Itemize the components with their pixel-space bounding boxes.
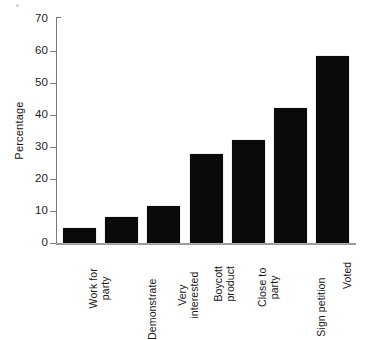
y-tick-label-30-wrap: 30 (18, 141, 48, 153)
x-label-slot-6: Voted (316, 248, 349, 332)
y-tick-label-20-wrap: 20 (18, 173, 48, 185)
x-label-slot-3: Boycottproduct (190, 248, 223, 332)
bar-1 (105, 217, 138, 243)
y-tick-label-40-wrap: 40 (18, 109, 48, 121)
y-axis-title: Percentage (14, 86, 25, 176)
x-axis-category-labels: Work forparty Demonstrate Veryinterested… (56, 248, 356, 332)
bar-0 (63, 228, 96, 244)
y-tick-label-50-wrap: 50 (18, 77, 48, 89)
x-label-6: Voted (341, 262, 353, 289)
y-tick-label-70-wrap: 70 (18, 13, 48, 25)
x-label-slot-5: Sign petition (274, 248, 307, 332)
y-tick-label-0: 0 (22, 237, 48, 249)
x-label-slot-0: Work forparty (63, 248, 96, 332)
y-tick-label-60-wrap: 60 (18, 45, 48, 57)
y-tick-label-40: 40 (22, 109, 48, 121)
x-axis-line (56, 243, 356, 245)
y-tick-0 (50, 243, 56, 244)
y-tick-label-50: 50 (22, 77, 48, 89)
plot-area (56, 17, 356, 243)
bar-3 (190, 154, 223, 243)
y-tick-label-0-wrap: 0 (18, 237, 48, 249)
y-tick-label-60: 60 (22, 45, 48, 57)
bar-6 (316, 56, 349, 243)
image-speck-artifact (16, 4, 19, 7)
x-label-slot-1: Demonstrate (105, 248, 138, 332)
bar-5 (274, 108, 307, 243)
y-tick-label-20: 20 (22, 173, 48, 185)
y-tick-label-30: 30 (22, 141, 48, 153)
x-label-slot-2: Veryinterested (147, 248, 180, 332)
bar-2 (147, 206, 180, 243)
y-tick-label-10: 10 (22, 205, 48, 217)
y-tick-label-70: 70 (22, 13, 48, 25)
x-label-slot-4: Close toparty (232, 248, 265, 332)
y-tick-label-10-wrap: 10 (18, 205, 48, 217)
bar-4 (232, 140, 265, 243)
